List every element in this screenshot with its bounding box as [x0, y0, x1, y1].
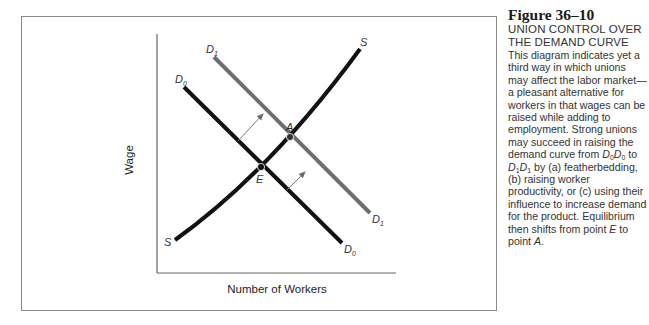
shift-arrow-lower — [287, 172, 305, 190]
figure-caption: Figure 36–10 UNION CONTROL OVER THE DEMA… — [508, 6, 649, 248]
label-d0-end: D0 — [344, 243, 356, 257]
caption-text: This diagram indicates yet a third way i… — [508, 49, 647, 160]
caption-d0: D — [602, 148, 610, 160]
caption-text: . — [541, 235, 544, 247]
label-d1-end: D1 — [372, 213, 384, 227]
figure-title-line1: UNION CONTROL OVER — [508, 23, 649, 36]
label-s-top: S — [360, 36, 368, 48]
shift-arrow-upper — [238, 114, 263, 141]
caption-d1: D — [508, 161, 516, 173]
point-a-marker — [286, 133, 293, 140]
label-s-bottom: S — [164, 236, 172, 248]
label-point-a: A — [285, 121, 293, 133]
label-d0-start: D0 — [175, 73, 187, 87]
caption-point-a: A — [534, 235, 541, 247]
y-axis-label: Wage — [123, 145, 135, 175]
figure-title-line2: THE DEMAND CURVE — [508, 36, 649, 49]
figure-caption-body: This diagram indicates yet a third way i… — [508, 49, 648, 248]
x-axis-label: Number of Workers — [227, 283, 327, 295]
figure-number: Figure 36–10 — [508, 6, 649, 23]
label-d1-start: D1 — [206, 43, 218, 57]
caption-text: to — [625, 148, 637, 160]
supply-curve — [175, 49, 360, 240]
point-e-marker — [257, 163, 264, 170]
label-point-e: E — [256, 173, 264, 185]
